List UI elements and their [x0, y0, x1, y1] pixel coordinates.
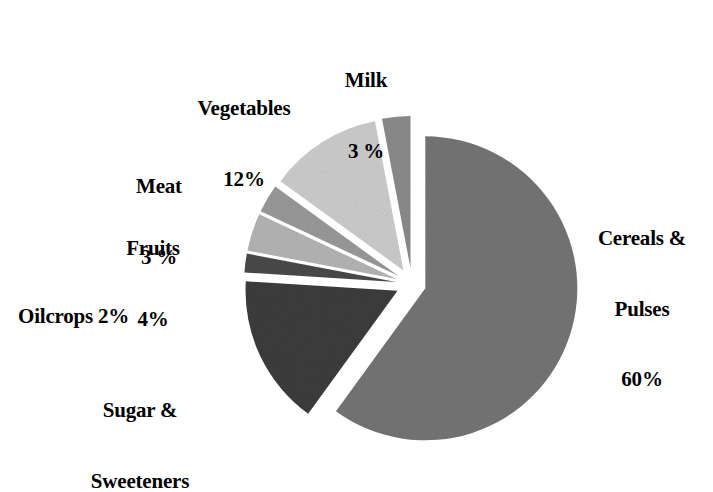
slice-label-cereals-value: 60% [578, 368, 706, 392]
slice-label-milk-value: 3 % [318, 140, 414, 164]
slice-label-cereals-pulses: Cereals & Pulses 60% [578, 180, 706, 439]
slice-label-sugar-name-line1: Sugar & [50, 399, 230, 423]
slice-label-vegetables-name: Vegetables [160, 97, 328, 121]
slice-label-milk: Milk 3 % [318, 22, 414, 210]
slice-label-cereals-name-line2: Pulses [578, 298, 706, 322]
slice-label-oilcrops-text: Oilcrops 2% [18, 305, 198, 329]
pie-chart-figure: Milk 3 % Vegetables 12% Meat 3 % Fruits … [0, 0, 713, 492]
slice-label-sugar-sweeteners: Sugar & Sweeteners 16% [50, 352, 230, 492]
slice-label-cereals-name-line1: Cereals & [578, 227, 706, 251]
slice-label-milk-name: Milk [318, 69, 414, 93]
slice-label-sugar-name-line2: Sweeteners [50, 470, 230, 492]
